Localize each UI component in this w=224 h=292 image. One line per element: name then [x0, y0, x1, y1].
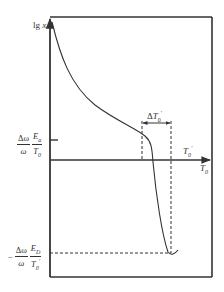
- y-axis-label-lg: lg: [33, 20, 40, 30]
- y-axis-label: lg x: [33, 21, 46, 30]
- y-axis-label-var: x: [42, 20, 46, 30]
- denominator: T0': [30, 257, 41, 271]
- denominator: ω: [20, 145, 28, 156]
- denominator: T0: [32, 145, 42, 158]
- fraction-left: Δω ω: [15, 245, 28, 268]
- t0-prime-label: T0': [183, 145, 192, 158]
- fraction-right: ED T0': [30, 243, 42, 270]
- numerator: ED: [30, 243, 42, 257]
- numerator: Ea: [32, 131, 42, 145]
- dashed-guides: [50, 121, 171, 253]
- response-curve: [52, 22, 178, 254]
- y-tick-lower-label: − Δω ω ED T0': [8, 243, 41, 270]
- sign: −: [8, 252, 13, 262]
- y-tick-upper-label: Δω ω Ea T0: [17, 131, 42, 157]
- delta-t-label: ΔT0': [147, 110, 162, 123]
- fraction-right: Ea T0: [32, 131, 42, 157]
- denominator: ω: [17, 257, 25, 268]
- x-axis-label: T0: [200, 164, 208, 175]
- fraction-left: Δω ω: [17, 133, 30, 156]
- numerator: Δω: [17, 133, 30, 145]
- numerator: Δω: [15, 245, 28, 257]
